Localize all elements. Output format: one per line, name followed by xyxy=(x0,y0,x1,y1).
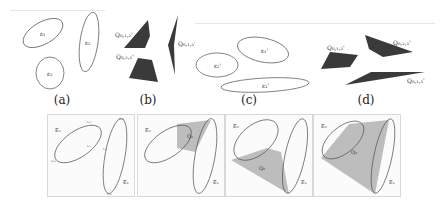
panel-b-diagram: Q₀,₁,₂' Q₀,₂,₃' Q₀,₁,₃' xyxy=(110,10,195,90)
svg-text:E₀: E₀ xyxy=(233,123,239,129)
svg-text:ε₂: ε₂ xyxy=(85,39,91,46)
svg-text:E₁: E₁ xyxy=(123,179,129,185)
polytope-q023 xyxy=(129,58,158,82)
svg-text:ε₃': ε₃' xyxy=(262,82,270,89)
panel-f-diagram: E₀ E₁ Q₁ xyxy=(137,114,225,197)
caption-a: (a) xyxy=(42,93,82,107)
svg-text:Q₁: Q₁ xyxy=(187,133,193,139)
svg-text:Q₀,₂,₃': Q₀,₂,₃' xyxy=(393,39,411,46)
svg-text:Q₀,₂,₃': Q₀,₂,₃' xyxy=(116,53,134,60)
svg-text:t₁₂₃: t₁₂₃ xyxy=(119,117,125,121)
svg-text:Q₀,₁,₂': Q₀,₁,₂' xyxy=(115,31,133,38)
polytope-q013 xyxy=(168,15,178,75)
svg-text:t₀₁: t₀₁ xyxy=(87,144,91,148)
caption-b: (b) xyxy=(128,93,168,107)
shaded-region-q3 xyxy=(321,120,389,194)
panel-c-frame xyxy=(195,23,435,24)
svg-text:ε₁: ε₁ xyxy=(40,30,46,37)
panel-a-diagram: ε₁ ε₂ ε₃ xyxy=(10,8,105,93)
shaded-region-q1 xyxy=(177,120,211,152)
svg-text:Q₀,₁,₃': Q₀,₁,₃' xyxy=(407,77,425,84)
polytope-q012-prime xyxy=(321,52,358,69)
svg-text:Q₀,₁,₂': Q₀,₁,₂' xyxy=(327,44,345,51)
svg-text:E₁: E₁ xyxy=(301,179,307,185)
panel-h-diagram: E₀ E₁ Q₃ xyxy=(313,114,401,197)
svg-text:t₀₁₂: t₀₁₂ xyxy=(87,120,93,124)
panel-c-diagram: ε₁' ε₂' ε₃' xyxy=(195,25,310,95)
svg-text:E₁: E₁ xyxy=(213,179,219,185)
shaded-region-q2 xyxy=(231,148,289,194)
panel-g-diagram: E₀ E₁ Q₂ xyxy=(225,114,313,197)
svg-text:E₀: E₀ xyxy=(55,127,61,133)
svg-text:Q₀,₁,₃': Q₀,₁,₃' xyxy=(178,40,195,47)
caption-d: (d) xyxy=(346,93,386,107)
panel-e-diagram: E₀ E₁ t₀₁₂ t₀₁ t₀₂₃ t₁₀ t₁₂₃ t₁₃₀ xyxy=(47,114,135,197)
svg-text:Q₃: Q₃ xyxy=(351,149,357,155)
svg-text:ε₃: ε₃ xyxy=(47,70,53,77)
svg-text:ε₁': ε₁' xyxy=(261,47,269,54)
svg-text:t₁₃₀: t₁₃₀ xyxy=(107,192,113,196)
panel-d-diagram: Q₀,₁,₂' Q₀,₂,₃' Q₀,₁,₃' xyxy=(315,25,440,95)
svg-text:Q₂: Q₂ xyxy=(259,165,265,171)
svg-text:ε₂': ε₂' xyxy=(214,62,222,69)
caption-c: (c) xyxy=(229,93,269,107)
svg-text:t₀₂₃: t₀₂₃ xyxy=(51,159,57,163)
svg-text:E₀: E₀ xyxy=(145,127,151,133)
svg-text:E₀: E₀ xyxy=(321,123,327,129)
svg-text:E₁: E₁ xyxy=(389,179,395,185)
